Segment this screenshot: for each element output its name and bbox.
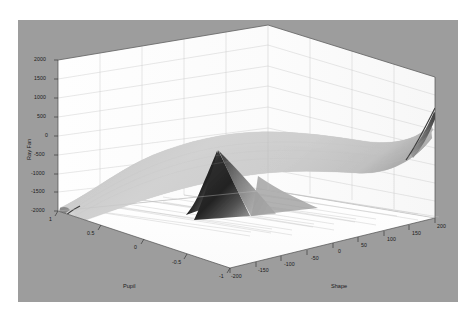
z-tick-label-8: -2000 <box>31 207 45 213</box>
z-tick-label-6: -1000 <box>31 170 45 176</box>
figure-panel: 2000 1500 1000 500 0 -500 -1000 -1500 -2… <box>18 20 458 302</box>
z-tick-label-7: -1500 <box>31 188 45 194</box>
y-tick-label-2: -100 <box>284 261 295 267</box>
y-axis-label: Shape <box>331 283 347 289</box>
wall-back-right <box>268 25 435 218</box>
z-axis-label: Ray Fan <box>26 139 32 160</box>
x-tick-label-1: 0.5 <box>87 230 95 236</box>
axes-3d: 2000 1500 1000 500 0 -500 -1000 -1500 -2… <box>18 20 458 302</box>
z-tick-label-1: 1500 <box>34 75 46 81</box>
z-tick-label-5: -500 <box>34 151 45 157</box>
plot-svg <box>18 20 458 302</box>
y-tick-label-0: -200 <box>231 273 242 279</box>
x-axis-label: Pupil <box>123 283 135 289</box>
z-tick-label-2: 1000 <box>34 94 46 100</box>
y-tick-label-1: -150 <box>258 267 269 273</box>
x-tick-label-4: -1 <box>219 273 224 279</box>
y-tick-label-8: 200 <box>437 223 446 229</box>
y-tick-label-3: -50 <box>311 255 319 261</box>
y-tick-label-7: 150 <box>412 230 421 236</box>
x-tick-label-0: 1 <box>49 216 52 222</box>
x-tick-label-3: -0.5 <box>172 259 181 265</box>
z-tick-label-4: 0 <box>45 132 48 138</box>
y-tick-label-4: 0 <box>338 248 341 254</box>
y-tick-label-5: 50 <box>361 242 367 248</box>
y-tick-label-6: 100 <box>387 236 396 242</box>
x-tick-label-2: 0 <box>134 244 137 250</box>
z-tick-label-3: 500 <box>37 113 46 119</box>
z-tick-marks <box>54 60 58 211</box>
z-tick-label-0: 2000 <box>34 56 46 62</box>
